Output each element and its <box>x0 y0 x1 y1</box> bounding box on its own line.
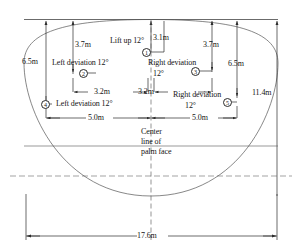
annotation-right-deviation-lower: Right deviation <box>173 90 221 99</box>
annotation-right-deviation-upper-angle: 12° <box>153 69 164 78</box>
annotation-left-deviation-upper: Left deviation 12° <box>52 58 109 67</box>
annotation-right-deviation-upper: Right deviation <box>148 58 196 67</box>
hole-marker-1[interactable]: 1 <box>142 48 151 57</box>
dimension-3.1m-center: 3.1m <box>153 33 169 42</box>
dimension-11.4m-right: 11.4m <box>252 88 271 97</box>
dimension-5.0m-left: 5.0m <box>88 113 104 122</box>
annotation-lift-up-angle: Lift up 12° <box>110 36 144 45</box>
diagram-canvas <box>0 0 301 252</box>
palm-face-blasthole-diagram: 1 2 3 4 5 Lift up 12° Left deviation 12°… <box>0 0 301 252</box>
dimension-3.2m-left: 3.2m <box>94 87 110 96</box>
dimension-3.7m-left: 3.7m <box>75 40 91 49</box>
hole-marker-4[interactable]: 4 <box>41 100 50 109</box>
dimension-17.6m-total: 17.6m <box>137 231 157 240</box>
dimension-6.5m-right: 6.5m <box>228 59 244 68</box>
hole-marker-5[interactable]: 5 <box>223 98 232 107</box>
hole-marker-2[interactable]: 2 <box>79 69 88 78</box>
center-line-note: Center line of palm face <box>141 127 175 157</box>
dimension-3.7m-right: 3.7m <box>203 40 219 49</box>
annotation-left-deviation-lower: Left deviation 12° <box>56 99 113 108</box>
dimension-6.5m-left: 6.5m <box>22 57 38 66</box>
dimension-3.2m-right: 3.2m <box>138 87 154 96</box>
hole-marker-3[interactable]: 3 <box>191 67 200 76</box>
dimension-5.0m-right: 5.0m <box>192 113 208 122</box>
annotation-right-deviation-lower-angle: 12° <box>185 101 196 110</box>
